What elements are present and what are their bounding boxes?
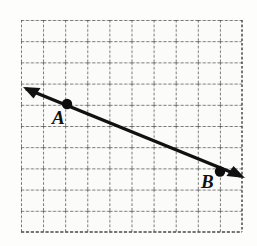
point-b-marker <box>215 166 225 176</box>
figure-container: A B <box>0 0 257 246</box>
point-b-label: B <box>201 172 214 191</box>
point-a-label: A <box>52 108 65 127</box>
coordinate-plot <box>0 0 257 246</box>
